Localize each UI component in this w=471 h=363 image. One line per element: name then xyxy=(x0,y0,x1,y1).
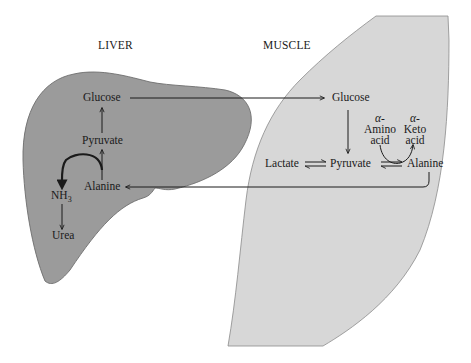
liver-pyruvate-label: Pyruvate xyxy=(82,135,123,147)
liver-title: LIVER xyxy=(98,40,133,52)
liver-alanine-label: Alanine xyxy=(84,181,120,193)
liver-urea-label: Urea xyxy=(52,230,74,242)
muscle-title: MUSCLE xyxy=(263,40,311,52)
alpha-keto-acid-label: α- Keto acid xyxy=(398,113,432,146)
muscle-alanine-label: Alanine xyxy=(407,158,443,170)
liver-glucose-label: Glucose xyxy=(83,92,121,104)
keto-acid-line2: acid xyxy=(398,135,432,146)
glucose-alanine-cycle-diagram xyxy=(0,0,471,363)
nh3-text: NH xyxy=(51,189,68,201)
muscle-glucose-label: Glucose xyxy=(332,92,370,104)
muscle-pyruvate-label: Pyruvate xyxy=(330,158,371,170)
liver-nh3-label: NH3 xyxy=(51,190,72,202)
nh3-subscript: 3 xyxy=(68,195,72,204)
alpha-amino-acid-label: α- Amino acid xyxy=(358,113,402,146)
amino-acid-line2: acid xyxy=(358,135,402,146)
muscle-shape xyxy=(228,16,449,346)
liver-shape xyxy=(23,72,251,284)
muscle-lactate-label: Lactate xyxy=(265,158,299,170)
